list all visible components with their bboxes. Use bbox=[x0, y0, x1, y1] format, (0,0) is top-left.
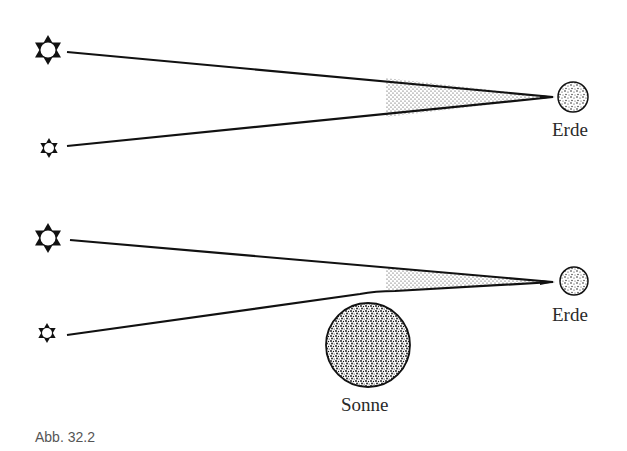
panel-with-sun bbox=[35, 223, 588, 387]
large-star-icon bbox=[35, 35, 61, 65]
panel-without-sun bbox=[35, 35, 588, 158]
small-star-icon bbox=[40, 138, 57, 158]
light-ray-deflected bbox=[67, 282, 553, 335]
figure-caption: Abb. 32.2 bbox=[35, 430, 95, 444]
light-ray-upper bbox=[67, 52, 553, 97]
small-star-icon bbox=[38, 323, 55, 343]
light-ray-lower bbox=[67, 97, 553, 146]
earth-label: Erde bbox=[552, 120, 588, 139]
light-deflection-diagram bbox=[0, 0, 627, 451]
large-star-icon bbox=[35, 223, 61, 253]
light-ray-upper bbox=[70, 240, 553, 282]
earth-label: Erde bbox=[552, 305, 588, 324]
sun-label: Sonne bbox=[341, 395, 389, 414]
earth-icon bbox=[558, 82, 588, 112]
earth-icon bbox=[560, 267, 588, 295]
sun-icon bbox=[326, 303, 410, 387]
